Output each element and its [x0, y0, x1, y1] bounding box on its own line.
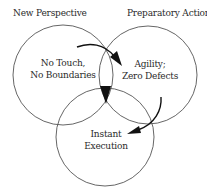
arrow-right-to-bottom: [138, 97, 161, 130]
left-circle-line2: No Boundaries: [30, 69, 95, 81]
venn-graphic: [0, 0, 207, 196]
heading-preparatory-action: Preparatory Action: [127, 7, 207, 19]
arrowhead-right-to-bottom-icon: [127, 126, 141, 134]
heading-new-perspective: New Perspective: [13, 7, 87, 19]
right-circle-line1: Agility;: [134, 58, 165, 70]
venn-diagram: New Perspective Preparatory Action No To…: [0, 0, 207, 196]
center-triangle-icon: [100, 86, 111, 104]
bottom-circle-line1: Instant: [91, 128, 122, 140]
left-circle-line1: No Touch,: [41, 57, 86, 69]
right-circle-line2: Zero Defects: [122, 70, 178, 82]
bottom-circle-line2: Execution: [84, 140, 128, 152]
